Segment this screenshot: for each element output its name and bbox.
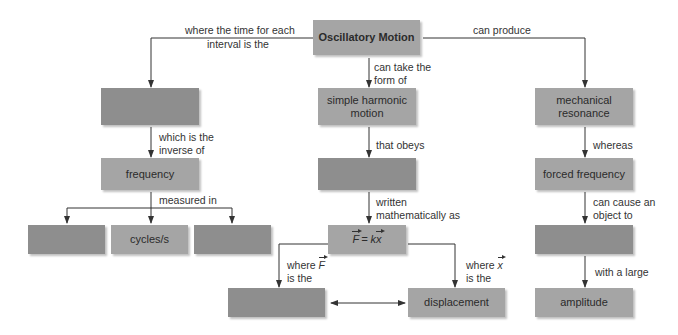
node-displacement: displacement <box>408 288 505 317</box>
link-label-written-2: mathematically as <box>376 209 460 222</box>
node-amplitude: amplitude <box>535 288 633 317</box>
where-text: where <box>466 259 495 271</box>
node-vibrate-blank <box>535 225 633 254</box>
node-oscillatory-motion: Oscillatory Motion <box>313 20 420 55</box>
node-force-blank <box>228 288 325 317</box>
link-label-where-F-2: is the <box>287 272 312 285</box>
link-label-can-take-2: form of <box>374 74 407 87</box>
link-label-where-x-2: is the <box>466 272 491 285</box>
formula-displacement-vector: x <box>376 233 382 246</box>
node-period-blank <box>101 88 199 125</box>
link-label-whereas: whereas <box>593 139 633 152</box>
formula-equals-k: = k <box>361 233 376 246</box>
link-label-can-cause-2: object to <box>593 209 633 222</box>
displacement-vector: x <box>498 259 503 271</box>
formula-force-vector: F <box>352 233 359 246</box>
link-label-inverse-2: inverse of <box>159 144 205 157</box>
link-label-can-cause-1: can cause an <box>593 196 655 209</box>
node-cycles-per-second: cycles/s <box>111 225 188 254</box>
link-label-written-1: written <box>376 196 407 209</box>
link-label-where-F: where F <box>287 259 325 272</box>
link-label-inverse-1: which is the <box>159 131 214 144</box>
link-label-with-a-large: with a large <box>595 266 649 279</box>
node-simple-harmonic-motion: simple harmonic motion <box>318 88 416 125</box>
node-forced-frequency: forced frequency <box>535 158 633 190</box>
link-label-measured-in: measured in <box>159 194 217 207</box>
node-formula: F = k x <box>328 225 406 254</box>
link-label-time-interval-2: interval is the <box>207 38 269 51</box>
link-label-where-x: where x <box>466 259 503 272</box>
node-mechanical-resonance: mechanical resonance <box>535 88 633 125</box>
node-unit-blank-2 <box>194 225 271 254</box>
where-text: where <box>287 259 316 271</box>
link-label-can-take-1: can take the <box>374 61 431 74</box>
node-frequency: frequency <box>101 158 199 190</box>
node-law-blank <box>318 158 416 190</box>
force-vector: F <box>319 259 325 271</box>
node-unit-blank-1 <box>28 225 105 254</box>
link-label-that-obeys: that obeys <box>376 139 424 152</box>
link-label-can-produce: can produce <box>473 24 531 37</box>
link-label-time-interval-1: where the time for each <box>185 24 295 37</box>
